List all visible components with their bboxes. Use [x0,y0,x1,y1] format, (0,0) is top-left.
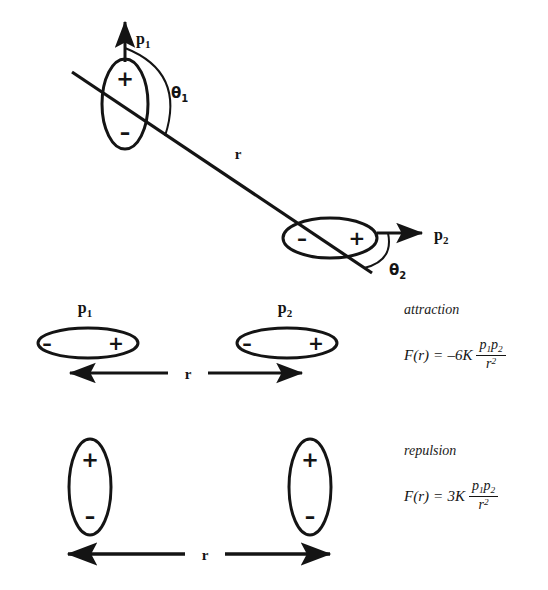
dipole-1-negative-charge: – [120,121,131,145]
figure-canvas: r + – p1 θ1 – + p2 [0,0,548,590]
attraction-formula-lhs: F(r) [404,347,429,364]
theta-1-label: θ1 [171,84,188,104]
repulsion-dipole-2: + – [289,439,331,535]
repulsion-dipole-2-positive-charge: + [301,448,319,472]
dipole-2-negative-charge: – [297,226,307,250]
attraction-condition-label: attraction [404,302,459,318]
attraction-dipole-1: – + p1 [38,299,138,358]
repulsion-dipole-2-negative-charge: – [305,505,316,529]
repulsion-dipole-1: + – [69,439,111,535]
repulsion-condition-label: repulsion [404,443,456,459]
repulsion-formula-fraction: p1p2 r2 [469,479,498,513]
repulsion-formula-lhs: F(r) [404,488,429,505]
attraction-dipole-2: – + p2 [237,299,337,358]
repulsion-formula: F(r) = 3K p1p2 r2 [404,479,498,513]
attraction-dipole-1-positive-charge: + [108,332,124,354]
attraction-formula-denominator: r2 [486,356,496,372]
repulsion-separation-label: r [202,547,209,563]
dipole-1-label: p1 [136,30,150,50]
repulsion-dipole-1-negative-charge: – [85,505,96,529]
attraction-formula-fraction: p1p2 r2 [476,338,505,372]
attraction-formula-equals: = [434,347,442,364]
attraction-separation-label: r [185,366,192,382]
attraction-dipole-2-negative-charge: – [242,332,252,354]
dipole-2: – + p2 θ2 [283,218,449,281]
theta-2-label: θ2 [389,261,406,281]
repulsion-formula-equals: = [434,488,442,505]
repulsion-dipole-1-positive-charge: + [81,448,99,472]
attraction-formula: F(r) = –6K p1p2 r2 [404,338,506,372]
repulsion-formula-denominator: r2 [479,497,489,513]
separation-line-r [72,72,372,273]
dipole-1: + – p1 θ1 [102,22,188,149]
attraction-dipole-2-label: p2 [278,299,293,319]
dipole-2-positive-charge: + [349,226,366,250]
attraction-formula-numerator: p1p2 [476,338,505,356]
attraction-dipole-1-label: p1 [78,299,92,319]
repulsion-panel: + – + – r [68,439,331,563]
attraction-formula-coefficient: –6K [447,347,472,364]
attraction-dipole-2-positive-charge: + [308,332,324,354]
general-orientation-panel: r + – p1 θ1 – + p2 [72,22,449,281]
repulsion-formula-numerator: p1p2 [469,479,498,497]
attraction-dipole-1-negative-charge: – [42,332,52,354]
attraction-panel: – + p1 – + p2 r [38,299,337,382]
dipole-1-positive-charge: + [116,67,134,91]
repulsion-formula-coefficient: 3K [447,488,465,505]
separation-label-r: r [235,146,242,162]
dipole-2-label: p2 [434,226,449,246]
